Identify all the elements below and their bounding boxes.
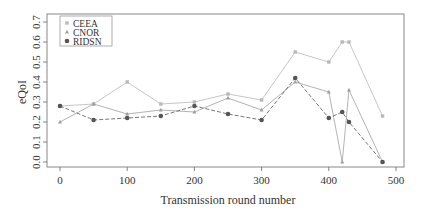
circle-marker-icon [259,118,264,123]
square-marker-icon [341,40,344,43]
circle-marker-icon [65,39,70,44]
square-marker-icon [347,40,350,43]
y-tick-label: 0.3 [30,95,42,109]
y-tick-label: 0.0 [30,155,42,169]
circle-marker-icon [327,116,332,121]
series-cnor [58,80,385,164]
x-axis: 0100200300400500 [57,167,405,186]
x-tick-label: 400 [321,174,338,186]
x-tick-label: 0 [57,174,63,186]
legend: CEEACNORRIDSN [60,16,112,47]
x-tick-label: 200 [186,174,203,186]
circle-marker-icon [293,76,298,81]
y-axis: 0.00.10.20.30.40.50.60.7 [30,15,47,169]
y-tick-label: 0.4 [30,75,42,89]
circle-marker-icon [380,160,385,165]
chart: 0.00.10.20.30.40.50.60.7 010020030040050… [0,0,427,214]
square-marker-icon [381,114,384,117]
y-tick-label: 0.2 [30,115,42,129]
triangle-marker-icon [347,88,351,92]
series-layer [58,40,385,164]
y-tick-label: 0.5 [30,55,42,69]
y-tick-label: 0.1 [30,135,42,149]
circle-marker-icon [347,120,352,125]
y-tick-label: 0.6 [30,35,42,49]
circle-marker-icon [125,116,130,121]
x-tick-label: 500 [388,174,405,186]
x-tick-label: 300 [253,174,270,186]
circle-marker-icon [58,104,63,109]
series-line [60,42,383,116]
circle-marker-icon [226,112,231,117]
x-tick-label: 100 [119,174,136,186]
square-marker-icon [226,92,229,95]
series-ridsn [58,76,385,165]
x-axis-label: Transmission round number [161,193,296,207]
triangle-marker-icon [340,160,344,164]
circle-marker-icon [91,118,96,123]
legend-label: RIDSN [73,37,102,47]
square-marker-icon [126,80,129,83]
line-chart: 0.00.10.20.30.40.50.60.7 010020030040050… [0,0,427,214]
square-marker-icon [294,50,297,53]
y-axis-label: eQoI [15,80,29,104]
square-marker-icon [260,98,263,101]
square-marker-icon [65,21,68,24]
series-ceea [58,40,384,117]
y-tick-label: 0.7 [30,15,42,29]
circle-marker-icon [340,110,345,115]
square-marker-icon [327,60,330,63]
square-marker-icon [193,100,196,103]
circle-marker-icon [192,104,197,109]
square-marker-icon [159,102,162,105]
circle-marker-icon [159,114,164,119]
triangle-marker-icon [226,96,230,100]
